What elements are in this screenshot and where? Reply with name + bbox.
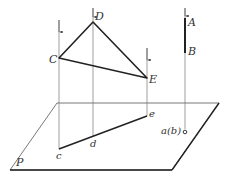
- plane-p-right-edge: [172, 103, 219, 170]
- label-a: A: [188, 17, 196, 28]
- label-d: D: [95, 11, 104, 22]
- label-plane-p: P: [16, 157, 23, 168]
- projection-line-cde: [59, 116, 147, 149]
- plane-p: [10, 103, 219, 170]
- triangle-cde: [59, 22, 147, 78]
- point-ab-projection: [183, 130, 187, 134]
- label-c-proj: c: [56, 151, 62, 161]
- label-d-proj: d: [90, 139, 96, 149]
- label-e: E: [149, 74, 157, 85]
- label-c: C: [49, 54, 57, 65]
- label-b: B: [188, 46, 196, 57]
- label-e-proj: e: [149, 109, 155, 119]
- label-ab-proj: a(b): [161, 126, 181, 136]
